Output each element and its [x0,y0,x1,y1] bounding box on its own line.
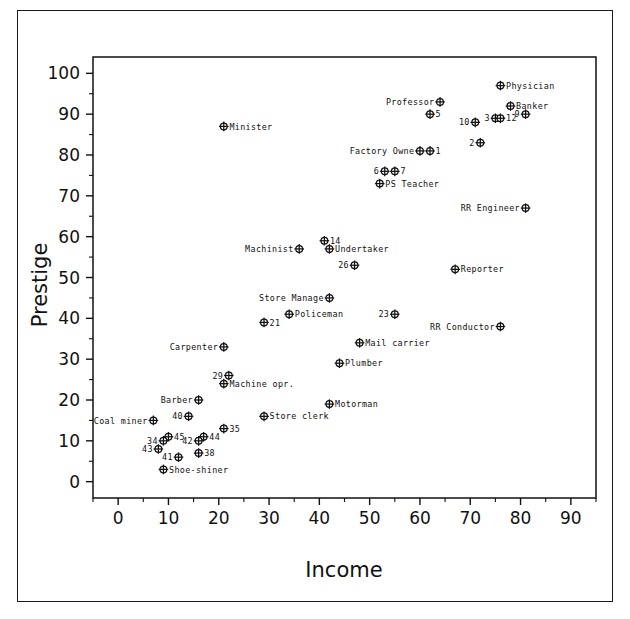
scatter-plot-figure: 0102030405060708090 01020304050607080901… [0,0,630,619]
x-tick-label: 20 [208,508,230,528]
data-point[interactable]: Professor [386,97,445,107]
y-tick-label: 20 [58,390,80,410]
x-axis-tick-labels: 0102030405060708090 [113,508,582,528]
point-label: Plumber [345,358,383,368]
data-point[interactable]: PS Teacher [375,179,439,189]
data-point[interactable]: 1 [425,146,441,156]
data-point[interactable]: 41 [162,452,183,462]
plot-canvas: 0102030405060708090 01020304050607080901… [0,0,630,619]
point-label: Carpenter [170,342,219,352]
y-axis-tick-labels: 0102030405060708090100 [48,63,80,491]
point-label: 12 [506,113,517,123]
data-point[interactable]: 2 [469,138,485,148]
point-label: 5 [436,109,441,119]
data-point[interactable]: 23 [378,309,399,319]
point-label: Motorman [335,399,378,409]
data-point[interactable]: RR Engineer [461,203,531,213]
data-point[interactable]: Factory Owne [350,146,425,156]
point-label: 10 [459,117,470,127]
data-point[interactable]: Store clerk [259,411,329,421]
data-point[interactable]: RR Conductor [430,322,505,332]
point-label: 42 [182,436,193,446]
point-label: 7 [400,166,405,176]
data-point[interactable]: Undertaker [325,244,389,254]
point-label: 41 [162,452,173,462]
point-label: RR Engineer [461,203,520,213]
data-point[interactable]: 6 [374,166,390,176]
x-tick-label: 40 [309,508,331,528]
data-point[interactable]: 38 [194,448,215,458]
y-tick-label: 10 [58,431,80,451]
point-label: 44 [209,432,220,442]
point-label: 3 [484,113,489,123]
point-label: Minister [229,122,272,132]
point-label: Reporter [461,264,504,274]
point-label: RR Conductor [430,322,495,332]
x-tick-label: 30 [258,508,280,528]
data-point[interactable]: 35 [219,424,240,434]
axes-box [93,57,596,498]
point-label: Machinist [245,244,294,254]
point-label: Mail carrier [365,338,430,348]
point-label: 2 [469,138,474,148]
data-point[interactable]: Physician [496,81,555,91]
y-tick-label: 80 [58,145,80,165]
point-label: Store Manage [259,293,324,303]
y-tick-label: 60 [58,227,80,247]
y-tick-label: 30 [58,349,80,369]
y-tick-label: 90 [58,104,80,124]
point-label: Professor [386,97,435,107]
data-point[interactable]: 26 [338,260,359,270]
x-tick-label: 10 [158,508,180,528]
point-label: 1 [436,146,441,156]
data-point[interactable]: Mail carrier [355,338,430,348]
x-tick-label: 90 [560,508,582,528]
point-label: 38 [204,448,215,458]
point-label: Store clerk [270,411,329,421]
data-point[interactable]: 5 [425,109,441,119]
x-tick-label: 60 [409,508,431,528]
point-label: 21 [270,318,281,328]
point-label: Barber [161,395,193,405]
x-tick-label: 80 [510,508,532,528]
data-point[interactable]: Motorman [325,399,379,409]
data-point[interactable]: 10 [459,117,480,127]
data-point[interactable]: 7 [390,166,406,176]
data-point[interactable]: 43 [142,444,163,454]
point-label: Factory Owne [350,146,415,156]
x-tick-label: 70 [459,508,481,528]
data-point[interactable]: 42 [182,436,203,446]
y-axis-title: Prestige [28,243,52,328]
data-point[interactable]: Store Manage [259,293,334,303]
point-label: 43 [142,444,153,454]
data-point[interactable]: Reporter [450,264,504,274]
data-point[interactable]: Carpenter [170,342,229,352]
y-tick-label: 0 [69,472,80,492]
axes [93,57,596,498]
data-point[interactable]: 12 [496,113,517,123]
data-point[interactable]: Coal miner [94,416,158,426]
point-label: Banker [516,101,548,111]
point-label: 40 [172,411,183,421]
point-label: PS Teacher [385,179,439,189]
y-tick-label: 50 [58,268,80,288]
data-point[interactable]: Machinist [245,244,304,254]
data-point[interactable]: Machine opr. [219,379,294,389]
point-label: 23 [378,309,389,319]
x-tick-label: 50 [359,508,381,528]
point-label: Machine opr. [229,379,294,389]
point-label: Shoe-shiner [169,465,228,475]
point-label: Policeman [295,309,344,319]
x-tick-label: 0 [113,508,124,528]
data-point[interactable]: Minister [219,122,273,132]
point-label: 29 [212,371,223,381]
data-point[interactable]: Policeman [284,309,343,319]
data-point[interactable]: 21 [259,318,280,328]
data-point[interactable]: Banker [506,101,549,111]
data-point[interactable]: 40 [172,411,193,421]
data-point[interactable]: Barber [161,395,204,405]
data-point[interactable]: Shoe-shiner [159,465,229,475]
point-label: 35 [229,424,240,434]
y-tick-label: 40 [58,308,80,328]
data-point[interactable]: Plumber [335,358,383,368]
